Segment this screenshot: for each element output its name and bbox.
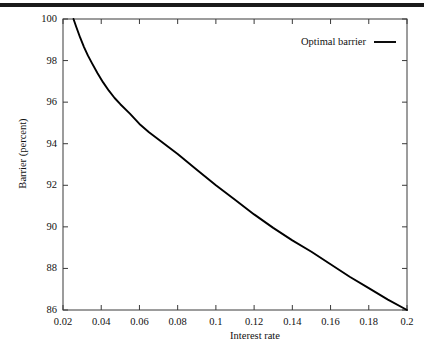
legend-entry-label: Optimal barrier: [236, 36, 366, 47]
data-curve-group: [74, 19, 407, 310]
x-axis-title: Interest rate: [195, 330, 315, 341]
tick-marks-group: [63, 19, 407, 310]
y-tick-label: 100: [31, 13, 57, 24]
y-tick-label: 94: [31, 138, 57, 149]
data-curve-optimal-barrier: [74, 19, 407, 310]
plot-canvas: [0, 0, 424, 356]
x-tick-label: 0.14: [272, 316, 312, 327]
y-tick-label: 92: [31, 179, 57, 190]
x-tick-label: 0.18: [349, 316, 389, 327]
x-tick-label: 0.02: [43, 316, 83, 327]
y-tick-label: 96: [31, 96, 57, 107]
plot-frame: [63, 19, 407, 310]
x-tick-label: 0.2: [387, 316, 424, 327]
y-axis-title: Barrier (percent): [17, 94, 28, 214]
y-tick-label: 88: [31, 262, 57, 273]
x-tick-label: 0.16: [311, 316, 351, 327]
x-tick-label: 0.06: [119, 316, 159, 327]
x-tick-label: 0.08: [158, 316, 198, 327]
x-tick-label: 0.1: [196, 316, 236, 327]
axes-frame-group: [63, 19, 407, 310]
figure-container: 86889092949698100 0.020.040.060.080.10.1…: [0, 0, 424, 356]
x-tick-label: 0.04: [81, 316, 121, 327]
y-tick-label: 86: [31, 304, 57, 315]
y-tick-label: 98: [31, 55, 57, 66]
x-tick-label: 0.12: [234, 316, 274, 327]
y-tick-label: 90: [31, 221, 57, 232]
